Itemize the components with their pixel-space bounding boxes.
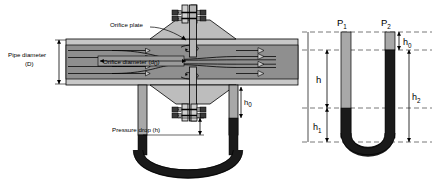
pipe-diameter-label-line2: (D) — [25, 60, 34, 67]
bolt-icon — [197, 107, 200, 112]
bolts-upper — [172, 10, 206, 21]
bolt-icon — [172, 107, 178, 112]
bolt-icon — [197, 113, 200, 118]
bolt-icon — [200, 16, 206, 21]
bolts-lower — [172, 107, 206, 118]
h0-schematic-subscript: 0 — [408, 42, 412, 49]
bolt-icon — [200, 10, 206, 15]
orifice-diameter-text: Orifice diameter (d — [103, 58, 154, 65]
p2-subscript: 2 — [387, 23, 391, 30]
orifice-diameter-paren: ) — [157, 58, 159, 65]
bolt-icon — [197, 10, 200, 15]
h2-label-schematic: h2 — [412, 92, 421, 104]
bolt-icon — [197, 16, 200, 21]
bolt-icon — [200, 113, 206, 118]
bolt-icon — [172, 10, 178, 15]
p1-label: P1 — [337, 17, 347, 30]
bolt-icon — [179, 113, 182, 118]
p2-label: P2 — [381, 17, 391, 30]
h0-label-schematic: h0 — [403, 37, 412, 49]
flange-cone-lower — [150, 85, 190, 104]
manometer-fluid-right — [229, 118, 238, 155]
h2-schematic-subscript: 2 — [417, 97, 421, 104]
bolt-icon — [179, 107, 182, 112]
pipe-diameter-label-line1: Pipe diameter — [8, 51, 46, 58]
bolt-icon — [179, 10, 182, 15]
figure-root: Pipe diameter (D) Orifice plate Orifice … — [0, 0, 437, 195]
schematic-right-tube-light — [385, 32, 395, 50]
h0-main-subscript: 0 — [248, 101, 252, 108]
h-label-schematic: h — [316, 74, 321, 85]
orifice-plate-stem-top — [190, 5, 197, 39]
bolt-icon — [179, 16, 182, 21]
flange-plate-right-bottom — [191, 104, 197, 121]
pipe-diameter-dimension — [55, 40, 66, 84]
orifice-plate-upper — [190, 39, 197, 57]
manometer-u-bend — [138, 150, 238, 174]
orifice-plate-lower — [190, 67, 197, 85]
flange-cone-upper-right — [196, 20, 236, 39]
orifice-meter-diagram: Pipe diameter (D) Orifice plate Orifice … — [0, 0, 437, 195]
bolt-icon — [200, 107, 206, 112]
pressure-drop-label: Pressure drop (h) — [112, 126, 160, 133]
flange-plate-left-bottom — [182, 104, 188, 121]
flange-plate-left-top — [182, 5, 188, 23]
orifice-plate-label: Orifice plate — [110, 21, 144, 28]
h0-label-main: h0 — [244, 98, 252, 108]
schematic-right-mercury — [385, 50, 395, 138]
h1-schematic-subscript: 1 — [318, 127, 322, 134]
p1-subscript: 1 — [343, 23, 347, 30]
bolt-icon — [172, 16, 178, 21]
bolt-icon — [172, 113, 178, 118]
h1-label-schematic: h1 — [313, 122, 322, 134]
